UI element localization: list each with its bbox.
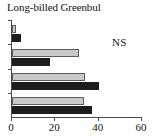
- chart-title: Long-billed Greenbul: [7, 1, 101, 13]
- bar-dark-group-3: [12, 82, 99, 90]
- bar-dark-group-2: [12, 58, 50, 66]
- x-tick-label-0: 0: [8, 121, 14, 134]
- y-tick-group-2: [8, 44, 11, 45]
- y-tick-group-1: [8, 20, 11, 21]
- x-tick-label-60: 60: [136, 121, 147, 134]
- bar-light-group-2: [12, 49, 79, 57]
- bar-dark-group-4: [12, 106, 92, 114]
- x-tick-label-20: 20: [49, 121, 60, 134]
- x-axis-line: [11, 117, 141, 118]
- bar-light-group-3: [12, 73, 85, 81]
- bar-chart-figure: Long-billed Greenbul NS 0204060: [0, 0, 159, 138]
- plot-area: 0204060: [11, 20, 141, 117]
- y-tick-group-3: [8, 69, 11, 70]
- bar-light-group-4: [12, 97, 84, 105]
- x-tick-label-40: 40: [92, 121, 103, 134]
- bar-light-group-1: [12, 25, 16, 33]
- bar-dark-group-1: [12, 34, 21, 42]
- y-tick-group-4: [8, 93, 11, 94]
